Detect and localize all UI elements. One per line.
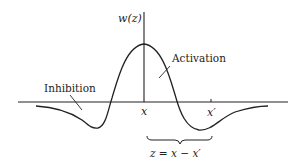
brace-label: z = x − x′ xyxy=(149,147,201,159)
distance-brace xyxy=(147,136,212,144)
activation-label: Activation xyxy=(171,52,226,64)
y-axis-label: w(z) xyxy=(118,12,142,25)
x-prime-tick-label: x′ xyxy=(207,106,216,119)
x-tick-label: x xyxy=(141,105,148,118)
mexican-hat-diagram: w(z) x x′ Activation Inhibition z = x − … xyxy=(0,0,305,162)
inhibition-label: Inhibition xyxy=(44,82,96,94)
